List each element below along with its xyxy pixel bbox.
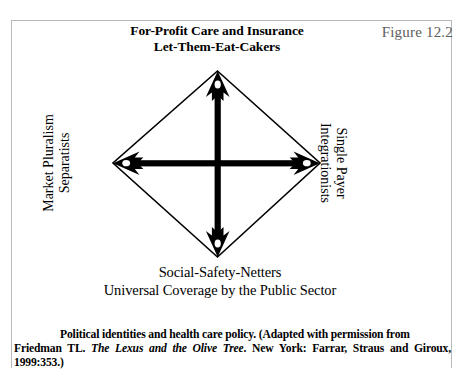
figure-caption: Political identities and health care pol… — [14, 328, 451, 370]
arrowhead-left-eyelet-icon — [122, 160, 130, 166]
arrowhead-up-eyelet-icon — [215, 81, 221, 89]
horizontal-arrow-shaft — [126, 160, 307, 166]
caption-lead: Political identities and health care pol… — [60, 328, 410, 341]
caption-author: Friedman TL. — [14, 342, 85, 355]
caption-book-title: The Lexus and the Olive Tree — [91, 342, 244, 355]
arrowhead-right-eyelet-icon — [303, 160, 311, 166]
caption-source-line: Friedman TL. The Lexus and the Olive Tre… — [14, 342, 451, 370]
arrowhead-down-eyelet-icon — [215, 240, 221, 248]
